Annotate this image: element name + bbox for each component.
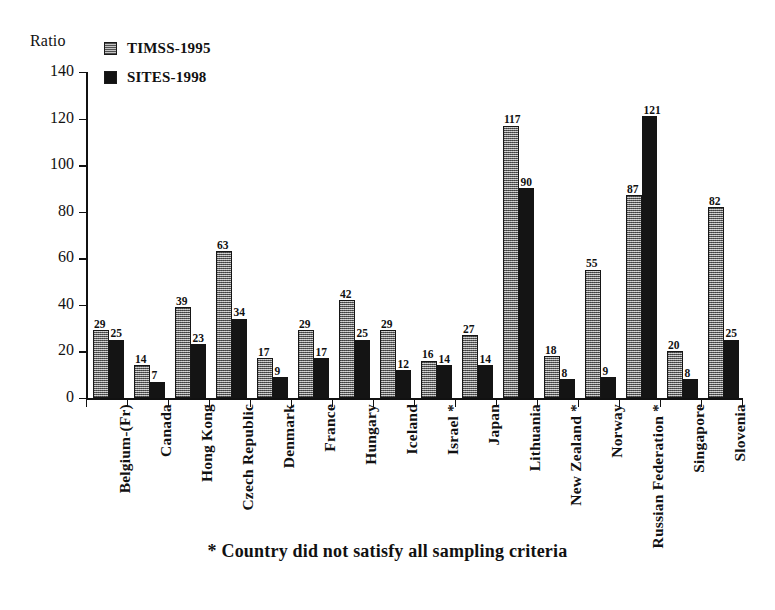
bar-group: 11790 bbox=[503, 72, 534, 398]
bar-value-label: 16 bbox=[422, 349, 434, 361]
legend-label-timss: TIMSS-1995 bbox=[127, 40, 211, 57]
bar-group: 2925 bbox=[93, 72, 124, 398]
y-axis-tick-label: 100 bbox=[50, 155, 74, 173]
x-axis-category-label: Russian Federation * bbox=[649, 404, 667, 548]
bar-value-label: 14 bbox=[439, 354, 451, 366]
x-axis-category-label: Israel * bbox=[444, 404, 462, 455]
plot-area: 0204060801001201402925147392363341792917… bbox=[86, 72, 742, 398]
x-axis-category-label: Hong Kong bbox=[198, 404, 216, 482]
y-axis-tick: 140 bbox=[79, 72, 87, 73]
timss-swatch-icon bbox=[104, 42, 117, 55]
bar-value-label: 9 bbox=[603, 366, 609, 378]
bar-sites: 8 bbox=[560, 379, 576, 398]
bar-timss: 27 bbox=[462, 335, 478, 398]
bar-sites: 23 bbox=[191, 344, 207, 398]
bar-value-label: 17 bbox=[258, 347, 270, 359]
bar-sites: 9 bbox=[601, 377, 617, 398]
bar-sites: 90 bbox=[519, 188, 535, 398]
bar-value-label: 25 bbox=[111, 328, 123, 340]
bar-timss: 39 bbox=[175, 307, 191, 398]
bar-group: 147 bbox=[134, 72, 165, 398]
bar-timss: 82 bbox=[708, 207, 724, 398]
bar-group: 2917 bbox=[298, 72, 329, 398]
bar-value-label: 90 bbox=[521, 177, 533, 189]
bar-value-label: 29 bbox=[381, 319, 393, 331]
y-axis-tick-label: 0 bbox=[66, 388, 74, 406]
bar-value-label: 8 bbox=[685, 368, 691, 380]
bar-value-label: 20 bbox=[668, 340, 680, 352]
bar-timss: 29 bbox=[93, 330, 109, 398]
bar-timss: 29 bbox=[380, 330, 396, 398]
y-axis-line bbox=[86, 72, 88, 398]
bar-timss: 55 bbox=[585, 270, 601, 398]
bar-group: 208 bbox=[667, 72, 698, 398]
x-axis-category-label: Czech Republic bbox=[239, 404, 257, 511]
bar-timss: 42 bbox=[339, 300, 355, 398]
x-axis-category-label: Canada bbox=[157, 404, 175, 457]
bar-value-label: 9 bbox=[275, 366, 281, 378]
x-axis-category-label: Iceland bbox=[403, 404, 421, 455]
x-axis-category-label: Japan bbox=[485, 404, 503, 446]
y-axis-tick-label: 40 bbox=[58, 295, 74, 313]
bar-value-label: 39 bbox=[176, 296, 188, 308]
bar-timss: 18 bbox=[544, 356, 560, 398]
bar-timss: 117 bbox=[503, 126, 519, 398]
x-axis-category-label: Hungary bbox=[362, 404, 380, 465]
y-axis-tick: 100 bbox=[79, 165, 87, 166]
bar-sites: 14 bbox=[437, 365, 453, 398]
bar-group: 87121 bbox=[626, 72, 657, 398]
bar-value-label: 34 bbox=[234, 307, 246, 319]
bar-sites: 25 bbox=[355, 340, 371, 398]
bar-group: 2714 bbox=[462, 72, 493, 398]
bar-value-label: 42 bbox=[340, 289, 352, 301]
bar-group: 3923 bbox=[175, 72, 206, 398]
bar-value-label: 17 bbox=[316, 347, 328, 359]
bar-timss: 63 bbox=[216, 251, 232, 398]
bar-sites: 17 bbox=[314, 358, 330, 398]
bar-value-label: 8 bbox=[562, 368, 568, 380]
y-axis-tick-label: 20 bbox=[58, 341, 74, 359]
bar-group: 6334 bbox=[216, 72, 247, 398]
x-axis-category-label: Norway bbox=[608, 404, 626, 458]
bar-value-label: 55 bbox=[586, 258, 598, 270]
bar-sites: 8 bbox=[683, 379, 699, 398]
bar-sites: 34 bbox=[232, 319, 248, 398]
bar-group: 1614 bbox=[421, 72, 452, 398]
bar-sites: 25 bbox=[109, 340, 125, 398]
y-axis-tick-label: 80 bbox=[58, 202, 74, 220]
bar-chart: Ratio TIMSS-1995 SITES-1998 020406080100… bbox=[0, 0, 775, 610]
bar-value-label: 82 bbox=[709, 196, 721, 208]
y-axis-tick-label: 60 bbox=[58, 248, 74, 266]
bar-timss: 87 bbox=[626, 195, 642, 398]
bar-sites: 25 bbox=[724, 340, 740, 398]
x-axis-category-label: France bbox=[321, 404, 339, 452]
bar-sites: 14 bbox=[478, 365, 494, 398]
bar-group: 4225 bbox=[339, 72, 370, 398]
bar-timss: 16 bbox=[421, 361, 437, 398]
y-axis-tick: 20 bbox=[79, 351, 87, 352]
bar-timss: 14 bbox=[134, 365, 150, 398]
x-axis-category-label: Singapore bbox=[690, 404, 708, 473]
bar-value-label: 117 bbox=[504, 114, 521, 126]
bar-sites: 9 bbox=[273, 377, 289, 398]
bar-value-label: 14 bbox=[135, 354, 147, 366]
bar-group: 2912 bbox=[380, 72, 411, 398]
bar-group: 188 bbox=[544, 72, 575, 398]
x-axis-category-label: Denmark bbox=[280, 404, 298, 468]
bar-value-label: 12 bbox=[398, 359, 410, 371]
bar-group: 559 bbox=[585, 72, 616, 398]
x-axis-category-label: Belgium-(Fr) bbox=[116, 404, 134, 493]
y-axis-tick: 120 bbox=[79, 119, 87, 120]
bar-value-label: 14 bbox=[480, 354, 492, 366]
bar-timss: 20 bbox=[667, 351, 683, 398]
bar-value-label: 23 bbox=[193, 333, 205, 345]
y-axis-tick-label: 120 bbox=[50, 109, 74, 127]
y-axis-tick-label: 140 bbox=[50, 62, 74, 80]
bar-value-label: 121 bbox=[644, 105, 661, 117]
bar-value-label: 25 bbox=[726, 328, 738, 340]
y-axis-tick: 80 bbox=[79, 212, 87, 213]
y-axis-tick: 40 bbox=[79, 305, 87, 306]
x-axis-category-label: New Zealand * bbox=[567, 404, 585, 506]
bar-value-label: 18 bbox=[545, 345, 557, 357]
bar-timss: 17 bbox=[257, 358, 273, 398]
